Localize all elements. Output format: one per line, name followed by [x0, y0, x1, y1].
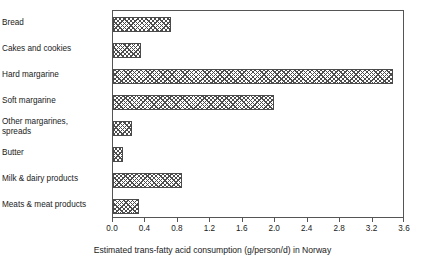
category-label: Butter: [2, 148, 104, 158]
category-label: Cakes and cookies: [2, 44, 104, 54]
bar: [113, 173, 182, 188]
x-tick-mark: [209, 218, 210, 222]
bar: [113, 69, 393, 84]
bar-chart: BreadCakes and cookiesHard margarineSoft…: [0, 0, 425, 266]
x-tick-mark: [112, 218, 113, 222]
plot-area: [112, 10, 404, 218]
bar: [113, 95, 274, 110]
x-tick-label: 2.0: [269, 224, 280, 233]
bar: [113, 199, 139, 214]
x-axis: 0.00.40.81.21.62.02.42.83.23.6: [112, 218, 404, 248]
x-tick-mark: [144, 218, 145, 222]
x-tick-label: 2.8: [333, 224, 344, 233]
x-tick-mark: [403, 218, 404, 222]
category-label: Hard margarine: [2, 70, 104, 80]
x-tick-mark: [372, 218, 373, 222]
bar: [113, 43, 141, 58]
x-tick-label: 0.0: [106, 224, 117, 233]
x-axis-title: Estimated trans-fatty acid consumption (…: [0, 245, 425, 255]
x-tick-label: 1.2: [204, 224, 215, 233]
category-axis: BreadCakes and cookiesHard margarineSoft…: [0, 10, 108, 218]
x-tick-label: 2.4: [301, 224, 312, 233]
x-tick-label: 1.6: [236, 224, 247, 233]
x-tick-label: 3.6: [398, 224, 409, 233]
category-label: Bread: [2, 18, 104, 28]
x-tick-mark: [177, 218, 178, 222]
x-tick-mark: [242, 218, 243, 222]
x-tick-mark: [339, 218, 340, 222]
x-tick-label: 0.8: [171, 224, 182, 233]
category-label: Soft margarine: [2, 96, 104, 106]
x-tick-mark: [274, 218, 275, 222]
category-label: Other margarines, spreads: [2, 117, 104, 136]
category-label: Milk & dairy products: [2, 174, 104, 184]
bar: [113, 121, 132, 136]
x-tick-label: 3.2: [366, 224, 377, 233]
x-tick-mark: [307, 218, 308, 222]
category-label: Meats & meat products: [2, 200, 104, 210]
bar: [113, 17, 171, 32]
x-tick-label: 0.4: [139, 224, 150, 233]
bar: [113, 147, 123, 162]
